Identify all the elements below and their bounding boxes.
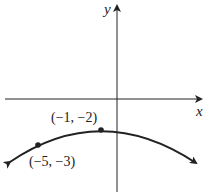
- parabola-graph: x y (−1, −2) (−5, −3): [0, 0, 212, 195]
- x-axis-label: x: [195, 103, 203, 119]
- vertex-label: (−1, −2): [51, 110, 97, 126]
- vertex-point: [98, 127, 104, 133]
- point-marker: [35, 142, 41, 148]
- y-axis-label: y: [102, 1, 111, 17]
- point-label: (−5, −3): [29, 154, 75, 170]
